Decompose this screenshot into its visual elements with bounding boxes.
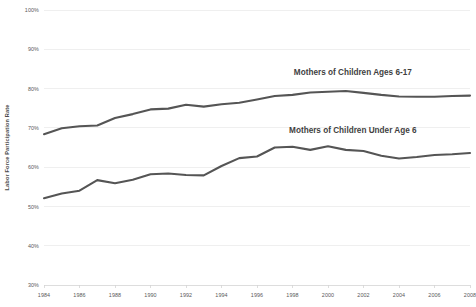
data-series-group [44, 91, 470, 198]
x-tick-label: 1996 [251, 292, 263, 298]
series-annotation: Mothers of Children Under Age 6 [289, 126, 417, 135]
y-tick-label: 30% [28, 282, 39, 288]
x-tick-label: 1994 [215, 292, 227, 298]
x-tick-label: 1998 [286, 292, 298, 298]
x-axis-tick-labels: 1984198619881990199219941996199820002002… [38, 292, 476, 298]
x-tick-label: 2008 [464, 292, 476, 298]
x-tick-label: 2000 [322, 292, 334, 298]
x-tick-label: 1988 [109, 292, 121, 298]
x-tick-label: 2002 [357, 292, 369, 298]
x-tick-label: 1992 [180, 292, 192, 298]
y-axis-title: Labor Force Participation Rate [4, 105, 10, 191]
y-tick-label: 40% [28, 243, 39, 249]
series-annotation-labels: Mothers of Children Ages 6-17Mothers of … [289, 68, 417, 135]
y-axis-tick-labels: 100%90%80%70%60%50%40%30% [25, 7, 39, 288]
x-tick-label: 2004 [393, 292, 405, 298]
labor-force-participation-line-chart: 100%90%80%70%60%50%40%30% 19841986198819… [0, 0, 476, 307]
series-annotation: Mothers of Children Ages 6-17 [294, 68, 412, 77]
y-tick-label: 90% [28, 46, 39, 52]
x-tick-label: 2006 [428, 292, 440, 298]
y-tick-label: 100% [25, 7, 39, 13]
chart-container: 100%90%80%70%60%50%40%30% 19841986198819… [0, 0, 476, 307]
y-tick-label: 70% [28, 125, 39, 131]
y-tick-label: 50% [28, 204, 39, 210]
data-line-mothers-of-children-under-age-6 [44, 146, 470, 198]
x-tick-label: 1986 [73, 292, 85, 298]
gridlines-group [44, 10, 470, 285]
x-tick-label: 1990 [144, 292, 156, 298]
tickmarks-group [44, 285, 470, 288]
y-tick-label: 60% [28, 164, 39, 170]
x-tick-label: 1984 [38, 292, 50, 298]
y-tick-label: 80% [28, 86, 39, 92]
